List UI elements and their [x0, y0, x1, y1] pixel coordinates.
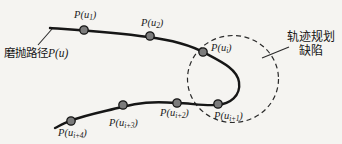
point-label-ui3: P(ui+3) — [109, 117, 138, 131]
data-point-ui3 — [119, 101, 127, 109]
point-label-ui4: P(ui+4) — [58, 127, 87, 141]
data-point-ui4 — [67, 117, 75, 125]
path-label-leader-line — [38, 29, 52, 45]
defect-callout-line2: 缺陷 — [280, 44, 342, 58]
point-label-ui1: P(ui+1) — [214, 110, 243, 124]
point-label-ui: P(ui) — [211, 42, 231, 56]
data-point-u1 — [80, 26, 88, 34]
point-label-ui2: P(ui+2) — [160, 107, 189, 121]
data-point-ui2 — [173, 99, 181, 107]
polishing-path-diagram: P(u1) P(u2) P(ui) P(ui+1) P(ui+2) P(ui+3… — [0, 0, 342, 144]
point-label-u2: P(u2) — [141, 17, 163, 31]
defect-callout-line1: 轨迹规划 — [280, 30, 342, 44]
data-point-ui1 — [214, 100, 222, 108]
data-point-ui — [199, 48, 207, 56]
diagram-canvas — [0, 0, 342, 144]
point-label-u1: P(u1) — [74, 9, 96, 23]
data-point-u2 — [146, 32, 154, 40]
defect-callout-label: 轨迹规划 缺陷 — [280, 30, 342, 58]
path-callout-label: 磨抛路径P(u) — [4, 47, 68, 60]
